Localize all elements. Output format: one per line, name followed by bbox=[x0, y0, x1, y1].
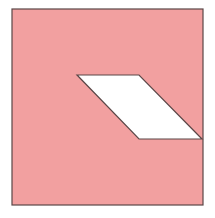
figure-canvas bbox=[0, 0, 215, 218]
figure-svg bbox=[0, 0, 215, 218]
